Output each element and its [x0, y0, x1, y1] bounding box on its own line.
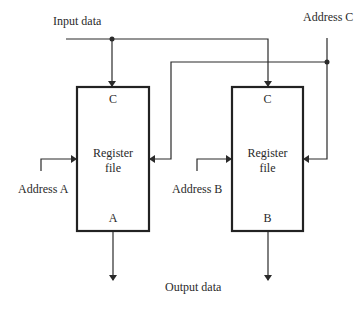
register-a-title-2: file: [77, 161, 149, 175]
register-a-port-c: C: [77, 92, 149, 106]
address-a-label: Address A: [18, 182, 68, 196]
address-a-wire: [41, 159, 76, 171]
register-b-title-1: Register: [232, 146, 303, 160]
register-b-port-c: C: [232, 92, 303, 106]
junction-dot: [325, 60, 330, 65]
register-a-port-a: A: [77, 211, 149, 225]
input-data-label: Input data: [53, 14, 101, 28]
address-b-label: Address B: [172, 182, 222, 196]
address-c-label: Address C: [303, 10, 353, 24]
output-data-label: Output data: [165, 280, 221, 294]
register-b-title-2: file: [232, 161, 303, 175]
diagram-wires: [0, 0, 361, 311]
register-a-title-1: Register: [77, 146, 149, 160]
register-file-diagram: Input data Address C Address A Address B…: [0, 0, 361, 311]
register-b-port-b: B: [232, 211, 303, 225]
junction-dot: [110, 37, 115, 42]
address-b-wire: [197, 159, 231, 171]
